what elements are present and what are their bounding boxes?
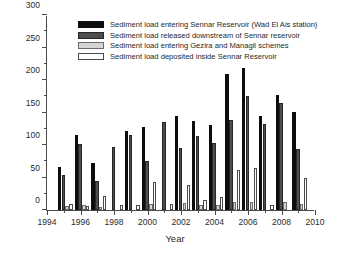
x-tick-minor: [198, 210, 199, 213]
x-tick-label: 2006: [239, 217, 258, 227]
x-tick-minor: [231, 210, 232, 213]
y-tick: [42, 112, 47, 113]
legend-label: Sediment load released downstream of Sen…: [110, 31, 300, 40]
x-tick-label: 2010: [306, 217, 325, 227]
caption-remnant: [4, 258, 346, 265]
x-tick: [181, 210, 182, 215]
y-tick: [42, 47, 47, 48]
y-tick: [42, 79, 47, 80]
bar: [120, 205, 123, 210]
y-tick-label: 300: [26, 0, 40, 10]
legend-label: Sediment load deposited inside Sennar Re…: [110, 52, 277, 61]
bar: [187, 185, 190, 210]
x-tick-label: 1994: [38, 217, 57, 227]
x-tick-minor: [131, 210, 132, 213]
bar: [283, 202, 286, 210]
y-tick-label: 0: [35, 195, 40, 205]
bar: [95, 181, 98, 210]
bar: [129, 135, 132, 210]
x-tick: [215, 210, 216, 215]
bar: [153, 182, 156, 210]
bar: [136, 205, 139, 210]
y-tick-minor: [44, 193, 47, 194]
x-tick: [47, 210, 48, 215]
bar: [263, 124, 266, 210]
x-tick-label: 2000: [138, 217, 157, 227]
y-tick: [42, 14, 47, 15]
bar: [103, 196, 106, 210]
legend-item[interactable]: Sediment load released downstream of Sen…: [78, 31, 317, 40]
x-tick-minor: [164, 210, 165, 213]
bar: [69, 204, 72, 210]
x-tick: [81, 210, 82, 215]
bar: [220, 197, 223, 210]
bar: [179, 148, 182, 210]
x-tick: [114, 210, 115, 215]
x-tick-minor: [64, 210, 65, 213]
x-tick-minor: [97, 210, 98, 213]
chart-legend: Sediment load entering Sennar Reservoir …: [78, 20, 317, 61]
bar: [229, 120, 232, 210]
bar: [170, 204, 173, 211]
y-tick-minor: [44, 128, 47, 129]
y-tick-label: 200: [26, 65, 40, 75]
x-tick: [315, 210, 316, 215]
bar: [62, 175, 65, 210]
x-axis-title: Year: [0, 233, 350, 244]
y-tick-label: 100: [26, 130, 40, 140]
bar: [162, 122, 165, 210]
bar: [112, 147, 115, 210]
bar: [78, 144, 81, 210]
x-tick: [248, 210, 249, 215]
y-tick-minor: [44, 160, 47, 161]
bar: [237, 170, 240, 210]
y-tick-minor: [44, 30, 47, 31]
y-tick-label: 250: [26, 33, 40, 43]
bar: [196, 136, 199, 210]
bar: [86, 206, 89, 210]
bar: [254, 168, 257, 210]
y-tick-label: 50: [31, 163, 40, 173]
bar: [279, 103, 282, 210]
x-tick-label: 1996: [71, 217, 90, 227]
x-tick-label: 1998: [105, 217, 124, 227]
legend-swatch-icon: [78, 32, 104, 39]
bar: [304, 178, 307, 211]
legend-label: Sediment load entering Gezira and Managi…: [110, 41, 289, 50]
x-tick-minor: [298, 210, 299, 213]
sediment-load-bar-chart: 050100150200250300 199419961998200020022…: [0, 0, 350, 266]
legend-swatch-icon: [78, 53, 104, 60]
y-tick-minor: [44, 63, 47, 64]
x-tick: [282, 210, 283, 215]
x-tick-minor: [265, 210, 266, 213]
bar: [246, 96, 249, 210]
y-tick-label: 150: [26, 98, 40, 108]
bar: [270, 205, 273, 210]
bar: [212, 143, 215, 210]
x-tick-label: 2002: [172, 217, 191, 227]
legend-swatch-icon: [78, 42, 104, 49]
x-tick: [148, 210, 149, 215]
y-tick-minor: [44, 95, 47, 96]
bar: [296, 149, 299, 210]
legend-item[interactable]: Sediment load deposited inside Sennar Re…: [78, 52, 317, 61]
legend-item[interactable]: Sediment load entering Sennar Reservoir …: [78, 20, 317, 29]
bar: [203, 200, 206, 210]
x-tick-label: 2004: [205, 217, 224, 227]
legend-label: Sediment load entering Sennar Reservoir …: [110, 20, 317, 29]
x-tick-label: 2008: [272, 217, 291, 227]
y-tick: [42, 144, 47, 145]
y-tick: [42, 177, 47, 178]
legend-item[interactable]: Sediment load entering Gezira and Managi…: [78, 41, 317, 50]
legend-swatch-icon: [78, 21, 104, 28]
